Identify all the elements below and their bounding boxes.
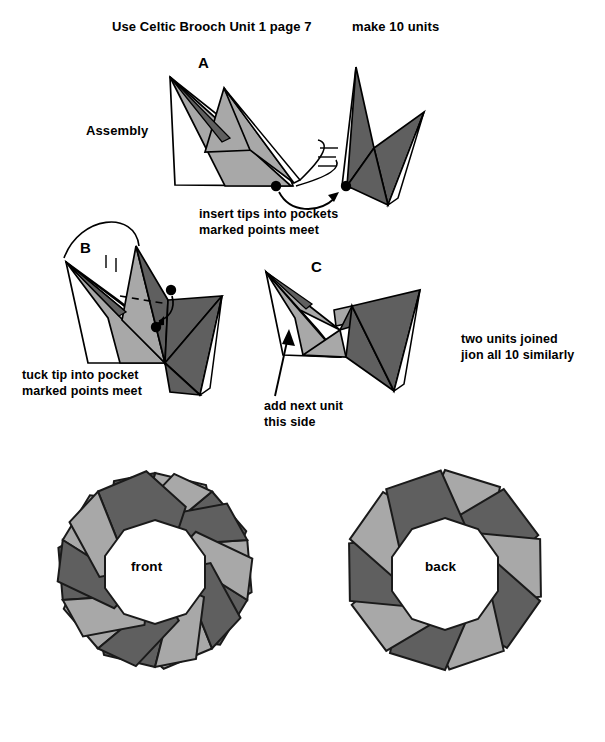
step-c-sidenote-line1: two units joined (461, 331, 558, 347)
step-c-sidenote-line2: jion all 10 similarly (461, 347, 574, 363)
ring-back-label: back (425, 558, 456, 576)
diagram-page: Use Celtic Brooch Unit 1 page 7 make 10 … (0, 0, 605, 742)
ring-front-label: front (131, 558, 162, 576)
step-c-annotation-line1: add next unit (264, 398, 343, 414)
